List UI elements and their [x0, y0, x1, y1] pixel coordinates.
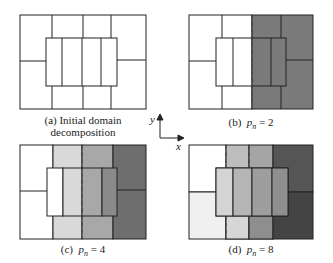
y-axis-label: y [150, 113, 155, 125]
caption-d: (d) pn = 8 [189, 243, 313, 260]
x-axis-label: x [176, 140, 181, 152]
panel-b [189, 15, 313, 109]
caption-prefix: (b) [228, 116, 241, 128]
caption-c: (c) pn = 4 [20, 243, 146, 260]
panel-d [189, 145, 313, 239]
caption-eq: = 8 [259, 243, 273, 255]
caption-sub: n [252, 122, 256, 131]
caption-sub: n [252, 249, 256, 258]
caption-a-line1: (a) Initial domain [20, 114, 146, 126]
caption-b: (b) pn = 2 [189, 116, 313, 133]
caption-prefix: (c) [61, 243, 73, 255]
caption-eq: = 4 [91, 243, 105, 255]
panel-a [20, 15, 146, 109]
caption-sub: n [84, 249, 88, 258]
caption-prefix: (d) [228, 243, 241, 255]
caption-eq: = 2 [259, 116, 273, 128]
axis-arrows [157, 114, 184, 141]
panel-c [20, 145, 146, 239]
caption-a: (a) Initial domain decomposition [20, 114, 146, 138]
caption-a-line2: decomposition [20, 126, 146, 138]
